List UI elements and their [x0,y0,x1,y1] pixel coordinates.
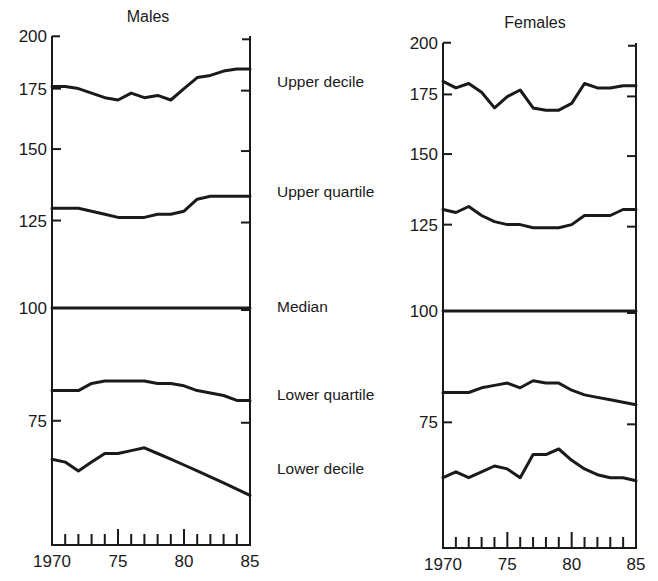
y-tick-label: 75 [419,413,438,432]
y-tick-label: 200 [410,34,438,53]
series-line-upper-quartile [52,196,250,217]
series-line-upper-decile [52,69,250,100]
y-tick-label: 175 [19,80,47,99]
series-label-lower-quartile: Lower quartile [277,386,374,403]
y-tick-label: 100 [19,299,47,318]
series-label-upper-quartile: Upper quartile [277,183,374,200]
series-labels: Upper decileUpper quartileMedianLower qu… [277,73,374,477]
series-line-upper-decile [443,81,636,110]
x-tick-label: 80 [175,552,194,571]
series-line-lower-decile [52,448,250,496]
y-tick-label: 200 [19,27,47,46]
x-tick-label: 1970 [424,555,462,574]
series-line-upper-quartile [443,207,636,228]
wage-distribution-figure: Males751001251501752001970758085 Females… [0,0,658,581]
y-tick-label: 175 [410,85,438,104]
y-tick-label: 150 [19,140,47,159]
males-panel: Males751001251501752001970758085 [19,8,260,571]
y-tick-label: 125 [410,216,438,235]
x-tick-label: 75 [109,552,128,571]
axis-frame [443,43,636,548]
x-tick-label: 85 [241,552,260,571]
series-label-median: Median [277,298,328,315]
x-tick-label: 75 [498,555,517,574]
series-label-lower-decile: Lower decile [277,460,364,477]
y-tick-label: 125 [19,212,47,231]
x-tick-label: 1970 [33,552,71,571]
panel-title: Males [127,8,170,25]
y-tick-label: 150 [410,145,438,164]
x-tick-label: 80 [562,555,581,574]
females-panel: Females751001251501752001970758085 [410,14,646,574]
panel-title: Females [504,14,565,31]
series-label-upper-decile: Upper decile [277,73,364,90]
y-tick-label: 75 [28,412,47,431]
series-line-lower-decile [443,449,636,481]
y-tick-label: 100 [410,302,438,321]
series-line-lower-quartile [52,381,250,400]
x-tick-label: 85 [627,555,646,574]
series-line-lower-quartile [443,381,636,405]
